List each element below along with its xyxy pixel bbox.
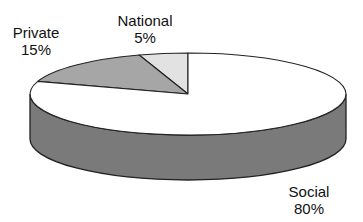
label-private: Private 15% <box>8 24 64 58</box>
label-national: National 5% <box>112 12 178 46</box>
label-national-name: National <box>112 12 178 29</box>
label-national-pct: 5% <box>112 29 178 46</box>
label-private-name: Private <box>8 24 64 41</box>
label-private-pct: 15% <box>8 41 64 58</box>
label-social: Social 80% <box>280 183 338 217</box>
label-social-pct: 80% <box>280 200 338 217</box>
label-social-name: Social <box>280 183 338 200</box>
pie-slices <box>30 53 346 135</box>
